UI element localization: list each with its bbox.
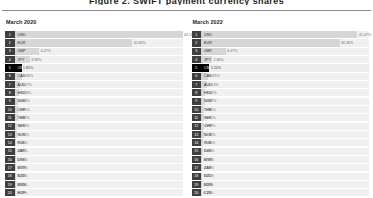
value-label: 0.72% [205, 123, 215, 130]
rank-badge: 2 [192, 39, 202, 46]
bar-row: 6CAD1.85% [192, 73, 370, 80]
value-label: 0.33% [17, 173, 27, 180]
rank-badge: 9 [192, 98, 202, 105]
bar-row: 2EUR36.36% [192, 39, 370, 46]
bar-track: JPY2.86% [201, 56, 369, 63]
rank-badge: 12 [192, 123, 202, 130]
bar-fill [201, 39, 340, 46]
bar-row: 8HKD1.28% [5, 89, 183, 96]
rank-badge: 19 [192, 181, 202, 188]
bar-fill [15, 31, 183, 38]
currency-code: JPY [204, 56, 211, 63]
bar-fill [201, 156, 202, 163]
rank-badge: 19 [5, 181, 15, 188]
rank-badge: 5 [192, 64, 202, 71]
bar-track: NOK0.71% [201, 131, 369, 138]
rank-badge: 8 [5, 89, 15, 96]
value-label: 0.39% [17, 148, 27, 155]
bar-track: HKD1.11% [201, 89, 369, 96]
rank-badge: 16 [192, 156, 202, 163]
figure-title: Figure 2. SWIFT payment currency shares [0, 0, 373, 5]
value-label: 1.11% [207, 89, 217, 96]
bar-row: 11SEK0.81% [192, 114, 370, 121]
bar-fill [15, 181, 16, 188]
rank-badge: 14 [5, 139, 15, 146]
bar-row: 17ZAR0.34% [192, 164, 370, 171]
rank-badge: 15 [5, 148, 15, 155]
rank-badge: 14 [192, 139, 202, 146]
bar-row: 13NOK0.70% [5, 131, 183, 138]
currency-code: USD [204, 31, 212, 38]
value-label: 36.36% [341, 39, 353, 46]
value-label: 0.36% [204, 156, 214, 163]
bar-track: PLN0.41% [15, 139, 183, 146]
bar-track: USD41.07% [201, 31, 369, 38]
bar-track: THB0.91% [15, 114, 183, 121]
bar-row: 14PLN0.41% [5, 139, 183, 146]
bar-track: HKD1.28% [15, 89, 183, 96]
rank-badge: 6 [192, 73, 202, 80]
bar-track: AUD1.53% [201, 81, 369, 88]
rank-badge: 9 [5, 98, 15, 105]
value-label: 0.81% [206, 106, 216, 113]
value-label: 6.47% [41, 48, 51, 55]
bar-row: 8HKD1.11% [192, 89, 370, 96]
bar-fill [201, 164, 202, 171]
value-label: 1.85% [23, 64, 33, 71]
bar-fill [15, 148, 16, 155]
bar-row: 15DKK0.47% [192, 148, 370, 155]
bar-track: GBP6.47% [201, 48, 369, 55]
bar-row: 12SEK0.76% [5, 123, 183, 130]
currency-code: EUR [204, 39, 212, 46]
bar-track: EUR36.36% [201, 39, 369, 46]
bar-track: NZD0.33% [15, 173, 183, 180]
rank-badge: 1 [5, 31, 15, 38]
rank-badge: 8 [192, 89, 202, 96]
rank-badge: 2 [5, 39, 15, 46]
bar-row: 14PLN0.65% [192, 139, 370, 146]
bar-track: CNY2.20% [201, 64, 369, 71]
bar-row: 3GBP6.47% [5, 48, 183, 55]
value-label: 1.53% [208, 81, 218, 88]
rank-badge: 5 [5, 64, 15, 71]
currency-code: GBP [18, 48, 26, 55]
bar-rows: 1USD41.07%2EUR36.36%3GBP6.47%4JPY2.86%5C… [192, 31, 370, 198]
value-label: 1.47% [22, 81, 32, 88]
value-label: 0.23% [17, 189, 27, 196]
bar-fill [15, 164, 16, 171]
bar-fill [201, 173, 202, 180]
chart-page: Figure 2. SWIFT payment currency shares … [0, 0, 373, 198]
value-label: 0.23% [203, 181, 213, 188]
value-label: 30.84% [133, 39, 145, 46]
bar-row: 17MYR0.37% [5, 164, 183, 171]
bar-row: 6CAD1.84% [5, 73, 183, 80]
bar-track: SGD0.97% [201, 98, 369, 105]
bar-fill [15, 139, 17, 146]
value-label: 0.37% [17, 164, 27, 171]
bar-row: 12CHF0.72% [192, 123, 370, 130]
bar-row: 18NZD0.33% [5, 173, 183, 180]
bar-track: GBP6.47% [15, 48, 183, 55]
bar-row: 18NZD0.31% [192, 173, 370, 180]
value-label: 0.76% [19, 123, 29, 130]
bar-row: 15ZAR0.39% [5, 148, 183, 155]
bar-track: NOK0.70% [15, 131, 183, 138]
bar-track: USD44.10% [15, 31, 183, 38]
rank-badge: 13 [5, 131, 15, 138]
bar-track: CHF0.72% [201, 123, 369, 130]
bar-track: PLN0.65% [201, 139, 369, 146]
rank-badge: 10 [192, 106, 202, 113]
bar-row: 1USD41.07% [192, 31, 370, 38]
value-label: 0.30% [17, 181, 27, 188]
value-label: 0.71% [205, 131, 215, 138]
rank-badge: 16 [5, 156, 15, 163]
bar-track: CNY1.85% [15, 64, 183, 71]
value-label: 0.47% [204, 148, 214, 155]
bar-rows: 1USD44.10%2EUR30.84%3GBP6.47%4JPY3.98%5C… [5, 31, 183, 198]
value-label: 0.41% [18, 139, 28, 146]
rank-badge: 18 [5, 173, 15, 180]
rank-badge: 15 [192, 148, 202, 155]
bar-track: MXN0.30% [15, 181, 183, 188]
bar-track: DKK0.47% [201, 148, 369, 155]
bar-row: 5CNY2.20% [192, 64, 370, 71]
